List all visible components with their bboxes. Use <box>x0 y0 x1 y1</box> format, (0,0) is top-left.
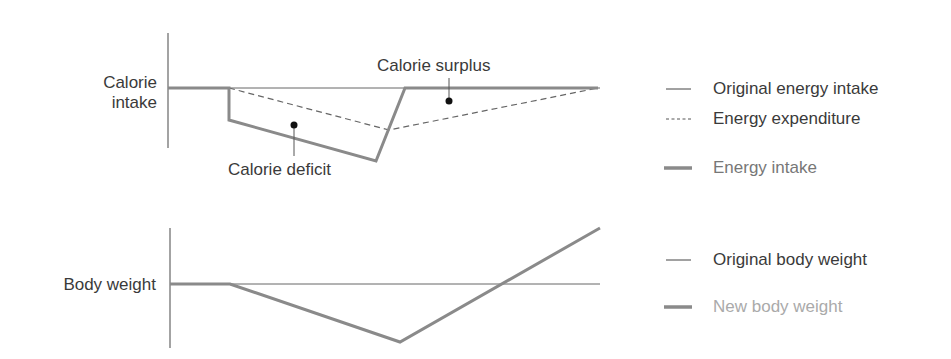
top-y-label: Calorie intake <box>103 73 157 113</box>
energy-expenditure-line <box>229 88 598 130</box>
bottom-y-label: Body weight <box>63 275 156 295</box>
top-y-label-line1: Calorie <box>103 73 157 93</box>
top-y-label-line2: intake <box>103 93 157 113</box>
calorie-deficit-label: Calorie deficit <box>228 160 331 180</box>
legend-energy-intake: Energy intake <box>713 158 817 178</box>
surplus-dot <box>446 98 453 105</box>
new-body-weight-line <box>170 228 600 342</box>
legend-energy-expenditure: Energy expenditure <box>713 109 860 129</box>
legend-original-energy-intake: Original energy intake <box>713 79 878 99</box>
deficit-dot <box>291 122 298 129</box>
legend-new-body-weight: New body weight <box>713 297 842 317</box>
energy-intake-line <box>168 88 598 161</box>
calorie-surplus-label: Calorie surplus <box>377 56 490 76</box>
legend-original-body-weight: Original body weight <box>713 250 867 270</box>
